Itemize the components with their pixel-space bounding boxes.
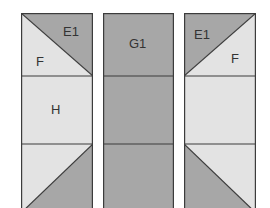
label-e1-left: E1: [63, 24, 79, 39]
right-panel: E1 F: [184, 13, 256, 208]
label-f-left: F: [36, 54, 44, 69]
right-panel-drawing: [184, 13, 256, 208]
middle-light-rectangle: [184, 76, 256, 144]
label-h: H: [51, 102, 60, 117]
left-panel: E1 F H: [21, 13, 93, 208]
label-g1: G1: [129, 36, 146, 51]
middle-panel: G1: [103, 13, 174, 208]
label-e1-right: E1: [194, 27, 210, 42]
label-f-right: F: [231, 51, 239, 66]
